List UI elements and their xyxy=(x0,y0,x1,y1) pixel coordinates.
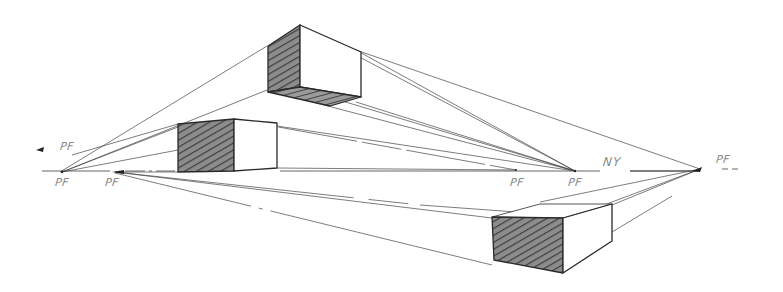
pf-label-far-left: PF xyxy=(59,140,74,153)
construction-lines-middle-box xyxy=(62,119,575,172)
top-box-front-face xyxy=(300,25,361,97)
middle-box xyxy=(178,119,277,172)
arrow-left-icon xyxy=(36,147,44,152)
middle-box-side-face xyxy=(178,119,234,172)
pf-label-center: PF xyxy=(567,176,582,189)
pf-label-center-left: PF xyxy=(509,176,524,189)
bottom-box-side-face xyxy=(492,217,563,273)
top-box-side-face xyxy=(268,25,300,92)
perspective-drawing xyxy=(0,0,783,292)
bottom-box xyxy=(492,204,612,273)
horizon-label: NY xyxy=(602,155,622,169)
top-box xyxy=(268,25,361,106)
pf-label-left-horizon: PF xyxy=(54,176,69,189)
construction-lines-top-box xyxy=(60,25,700,172)
pf-label-right: PF xyxy=(715,153,730,166)
pf-label-left-inner: PF xyxy=(104,176,119,189)
middle-box-front-face xyxy=(234,119,277,171)
